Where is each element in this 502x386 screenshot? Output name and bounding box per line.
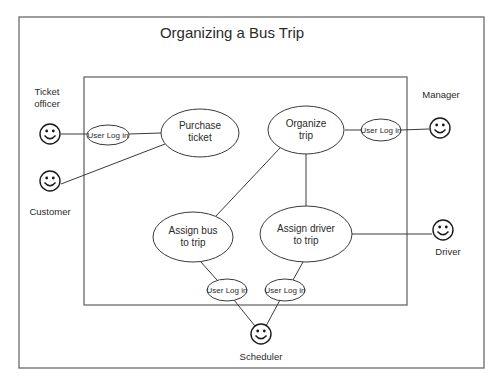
actor-driver[interactable]: Driver — [433, 220, 461, 257]
edge-assign-bus-login — [200, 261, 217, 280]
actor-label: Ticket — [35, 86, 60, 97]
use-case-label: to trip — [180, 237, 205, 248]
login-manager[interactable]: User Log in — [361, 119, 402, 141]
actor-label: officer — [34, 98, 60, 109]
login-label: User Log in — [265, 286, 306, 295]
actor-customer[interactable]: Customer — [29, 171, 70, 217]
edge-login-manager — [401, 129, 429, 130]
use-case-purchase-ticket[interactable]: Purchase ticket — [161, 109, 239, 157]
login-ticket-officer[interactable]: User Log in — [87, 125, 129, 145]
use-case-assign-driver[interactable]: Assign driver to trip — [260, 206, 352, 262]
edge-login-scheduler-right — [266, 300, 280, 326]
actor-ticket-officer[interactable]: Ticket officer — [34, 86, 60, 144]
edge-customer-purchase — [61, 144, 165, 184]
login-label: User Log in — [361, 126, 402, 135]
use-case-label: trip — [299, 130, 313, 141]
use-case-label: Assign driver — [277, 223, 335, 234]
login-label: User Log in — [88, 131, 129, 140]
use-case-label: to trip — [293, 235, 318, 246]
actor-label: Scheduler — [240, 351, 283, 362]
use-case-assign-bus[interactable]: Assign bus to trip — [153, 212, 233, 262]
use-case-label: ticket — [188, 132, 212, 143]
diagram-title: Organizing a Bus Trip — [160, 24, 304, 41]
use-case-label: Organize — [286, 118, 327, 129]
use-case-label: Assign bus — [169, 225, 218, 236]
smiley-face-icon — [433, 220, 453, 240]
smiley-face-icon — [251, 324, 271, 344]
use-case-label: Purchase — [179, 120, 222, 131]
system-boundary — [84, 77, 407, 305]
actor-scheduler[interactable]: Scheduler — [240, 324, 283, 362]
associations — [61, 129, 432, 326]
smiley-face-icon — [430, 118, 450, 138]
edge-login-purchase — [129, 133, 161, 134]
outer-frame — [19, 17, 484, 368]
edge-organize-assign-bus — [216, 148, 280, 216]
login-scheduler-driver[interactable]: User Log in — [265, 279, 306, 301]
actor-label: Manager — [422, 89, 460, 100]
actor-label: Driver — [435, 246, 460, 257]
actor-manager[interactable]: Manager — [422, 89, 460, 138]
smiley-face-icon — [40, 171, 60, 191]
login-label: User Log in — [207, 286, 248, 295]
edge-assign-driver-login — [293, 262, 303, 280]
smiley-face-icon — [40, 124, 60, 144]
use-case-organize-trip[interactable]: Organize trip — [268, 106, 344, 154]
use-case-diagram: Organizing a Bus Trip Purchase ticket Or… — [0, 0, 502, 386]
login-scheduler-bus[interactable]: User Log in — [207, 279, 248, 301]
edge-login-scheduler-left — [234, 300, 255, 326]
actor-label: Customer — [29, 206, 70, 217]
